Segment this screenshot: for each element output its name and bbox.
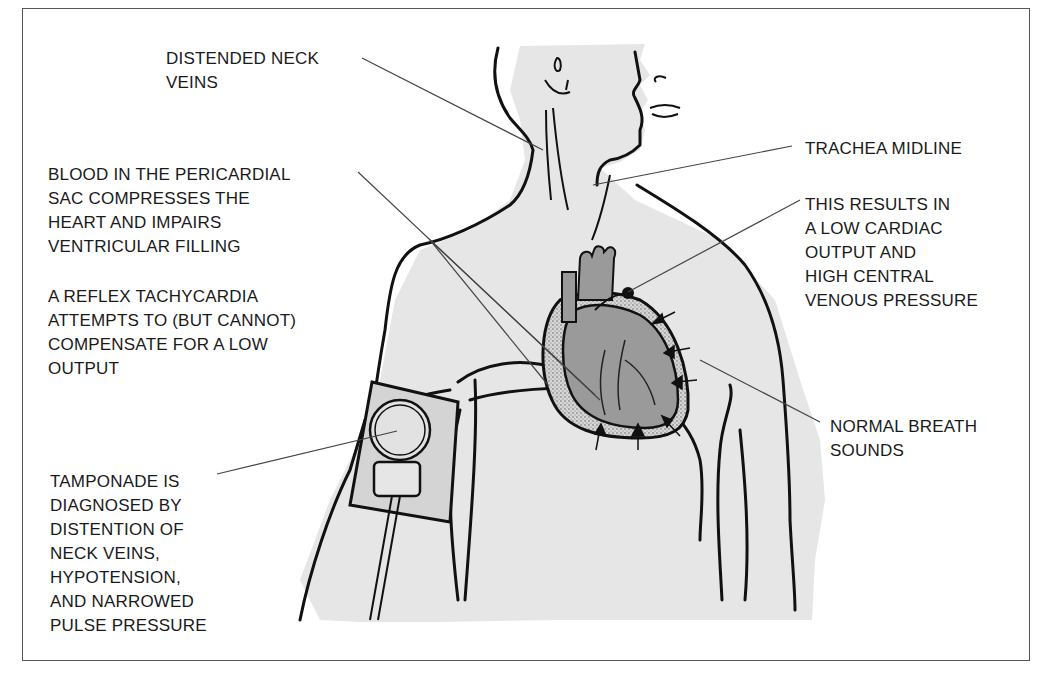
- label-pericardial-blood: BLOOD IN THE PERICARDIAL SAC COMPRESSES …: [48, 163, 291, 259]
- label-reflex-tachycardia: A REFLEX TACHYCARDIA ATTEMPTS TO (BUT CA…: [48, 285, 296, 381]
- label-normal-breath-sounds: NORMAL BREATH SOUNDS: [830, 415, 977, 463]
- label-tamponade-diagnosis: TAMPONADE IS DIAGNOSED BY DISTENTION OF …: [50, 470, 207, 638]
- label-distended-neck-veins: DISTENDED NECK VEINS: [166, 47, 319, 95]
- label-low-cardiac-output: THIS RESULTS IN A LOW CARDIAC OUTPUT AND…: [805, 193, 978, 313]
- label-trachea-midline: TRACHEA MIDLINE: [805, 137, 962, 161]
